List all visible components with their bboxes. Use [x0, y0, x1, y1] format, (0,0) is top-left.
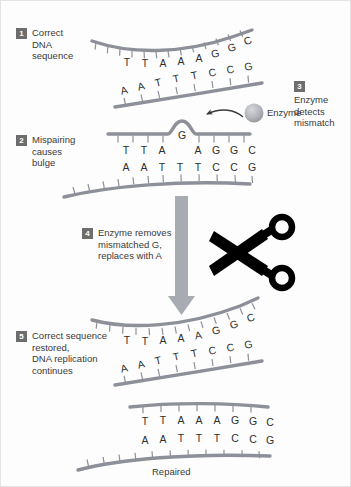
- base-letter: C: [230, 161, 238, 173]
- step-3-badge: 3: [294, 81, 305, 92]
- base-letter: G: [266, 434, 274, 446]
- diagram-graphics: T T A A A G G C A A T T T C C G: [0, 0, 351, 487]
- base-letter: G: [210, 46, 221, 60]
- base-letter: T: [142, 335, 149, 347]
- step-4-badge: 4: [82, 228, 93, 239]
- base-letter: A: [177, 332, 184, 344]
- repaired-top-backbone: [130, 404, 268, 407]
- base-letter: A: [213, 414, 220, 426]
- base-letter: A: [159, 433, 166, 445]
- step-2-text: Mispairing causes bulge: [32, 134, 75, 169]
- base-letter: A: [119, 83, 129, 96]
- base-letter: G: [243, 59, 253, 72]
- repaired-top-bases: T T A A A G G C: [142, 414, 274, 428]
- base-letter: T: [142, 415, 149, 427]
- step-1-badge: 1: [16, 28, 27, 39]
- step2-bottom-backbone: [64, 183, 250, 197]
- base-letter: T: [195, 161, 202, 173]
- repaired-dna-panel: T T A A A G G C A A T T T C C G: [78, 404, 274, 470]
- base-letter: C: [231, 432, 239, 444]
- base-letter: T: [172, 349, 181, 362]
- dna-mismatch-repair-figure: T T A A A G G C A A T T T C C G: [0, 0, 351, 487]
- base-letter: G: [212, 144, 220, 156]
- base-letter: G: [230, 144, 238, 156]
- base-letter: A: [194, 144, 201, 156]
- step5-dna-panel: T T A A A G G C A A T T T C C G: [92, 298, 262, 385]
- base-letter: C: [208, 343, 218, 356]
- base-letter: G: [243, 337, 253, 350]
- base-letter: T: [154, 75, 164, 88]
- step1-dna-panel: T T A A A G G C A A T T T C C G: [92, 30, 262, 107]
- step-5-badge: 5: [16, 331, 27, 342]
- base-letter: G: [231, 414, 239, 426]
- base-letter: C: [226, 340, 236, 353]
- step-4-caption-block: 4 Enzyme removes mismatched G, replaces …: [82, 227, 171, 262]
- bulge-base-letter: G: [178, 129, 186, 141]
- repaired-bottom-bases: A A T T T C C G: [141, 432, 274, 446]
- repaired-label: Repaired: [152, 466, 191, 477]
- base-letter: C: [248, 144, 256, 156]
- base-letter: T: [177, 161, 184, 173]
- base-letter: T: [141, 144, 148, 156]
- base-letter: T: [159, 161, 166, 173]
- base-letter: T: [196, 432, 203, 444]
- step-4-text: Enzyme removes mismatched G, replaces wi…: [98, 227, 171, 262]
- base-letter: G: [228, 317, 240, 331]
- base-letter: A: [140, 161, 147, 173]
- base-letter: C: [208, 65, 218, 78]
- base-letter: C: [245, 310, 257, 324]
- base-letter: T: [124, 56, 131, 68]
- base-letter: A: [136, 79, 146, 92]
- base-letter: G: [248, 161, 256, 173]
- enzyme-label: Enzyme: [267, 107, 301, 119]
- enzyme-sphere-icon: [245, 104, 264, 123]
- base-letter: C: [242, 33, 254, 47]
- base-letter: A: [194, 329, 203, 342]
- base-letter: G: [226, 40, 237, 54]
- step-1-text: Correct DNA sequence: [32, 27, 73, 62]
- step2-bottom-bases: A A T T T C C G: [122, 161, 256, 173]
- base-letter: A: [122, 161, 129, 173]
- base-letter: T: [172, 71, 181, 84]
- base-letter: A: [177, 55, 184, 67]
- base-letter: C: [212, 161, 220, 173]
- step-2-badge: 2: [16, 135, 27, 146]
- process-arrow: [168, 196, 195, 315]
- base-letter: T: [190, 68, 199, 81]
- base-letter: T: [190, 346, 199, 359]
- base-letter: A: [136, 357, 146, 370]
- base-letter: A: [159, 57, 166, 69]
- step-5-caption-block: 5 Correct sequence restored, DNA replica…: [16, 330, 107, 376]
- step1-top-ticks: [95, 30, 243, 58]
- base-letter: A: [195, 414, 202, 426]
- base-letter: G: [249, 415, 257, 427]
- step-3-caption-block: 3 Enzyme detects mismatch: [294, 80, 335, 129]
- base-letter: A: [195, 52, 202, 64]
- base-letter: C: [226, 62, 236, 75]
- base-letter: A: [141, 434, 148, 446]
- base-letter: T: [160, 414, 167, 426]
- base-letter: T: [124, 334, 131, 346]
- base-letter: T: [123, 144, 130, 156]
- base-letter: T: [214, 432, 221, 444]
- base-letter: C: [249, 433, 257, 445]
- base-letter: A: [159, 334, 166, 346]
- base-letter: T: [142, 57, 149, 69]
- step-5-text: Correct sequence restored, DNA replicati…: [32, 330, 107, 376]
- base-letter: T: [154, 353, 164, 366]
- step5-top-bases: T T A A A G G C: [124, 310, 257, 347]
- base-letter: A: [119, 361, 129, 374]
- step-2-caption-block: 2 Mispairing causes bulge: [16, 134, 75, 169]
- scissors-icon: [209, 217, 292, 288]
- step2-top-bases: T T A A G G C: [123, 144, 256, 156]
- enzyme-group: [207, 104, 264, 123]
- base-letter: C: [266, 416, 274, 428]
- step-1-caption-block: 1 Correct DNA sequence: [16, 27, 73, 62]
- base-letter: T: [178, 432, 185, 444]
- step1-bottom-bases: A A T T T C C G: [119, 59, 253, 96]
- base-letter: A: [177, 414, 184, 426]
- base-letter: G: [210, 323, 221, 337]
- step5-bottom-bases: A A T T T C C G: [119, 337, 253, 374]
- step2-dna-panel: G T T A A G G C A A T T T C C G: [64, 121, 256, 197]
- base-letter: A: [158, 144, 165, 156]
